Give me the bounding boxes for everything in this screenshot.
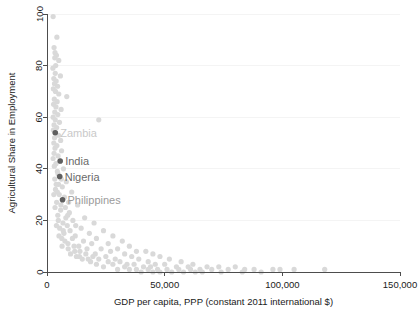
data-point [99, 246, 104, 251]
data-point [101, 228, 106, 233]
data-point [55, 112, 60, 117]
x-tick-label-100000: 100,000 [265, 279, 299, 290]
data-point [79, 226, 84, 231]
data-point [94, 262, 99, 267]
data-point [82, 215, 87, 220]
data-point [52, 164, 57, 169]
data-point [70, 236, 75, 241]
data-point [164, 267, 169, 272]
data-point [106, 241, 111, 246]
data-point [157, 254, 162, 259]
data-point [129, 254, 134, 259]
data-point [57, 120, 62, 125]
data-point [58, 207, 63, 212]
data-point [176, 267, 181, 272]
data-point [52, 135, 57, 140]
data-point [162, 262, 167, 267]
data-point [67, 228, 72, 233]
data-point [53, 71, 58, 76]
data-point [59, 148, 64, 153]
data-point [270, 267, 275, 272]
data-point [51, 45, 56, 50]
data-point [96, 117, 101, 122]
data-point [52, 205, 57, 210]
data-point [153, 262, 158, 267]
data-point [54, 35, 59, 40]
chart-canvas: ZambiaIndiaNigeriaPhilippines02040608010… [0, 0, 420, 316]
data-point [131, 262, 136, 267]
data-point [83, 251, 88, 256]
y-tick-label-60: 60 [34, 112, 45, 123]
data-point [122, 251, 127, 256]
data-point [143, 249, 148, 254]
data-point [64, 94, 69, 99]
data-point [94, 236, 99, 241]
point-label-zambia: Zambia [60, 127, 98, 139]
data-point [51, 192, 56, 197]
y-tick-label-80: 80 [34, 60, 45, 71]
data-point [115, 267, 120, 272]
data-point [56, 218, 61, 223]
data-point [108, 249, 113, 254]
data-point [87, 231, 92, 236]
data-point [52, 146, 57, 151]
data-point [113, 257, 118, 262]
data-point [60, 184, 65, 189]
data-point [117, 259, 122, 264]
data-point [233, 264, 238, 269]
data-point [216, 264, 221, 269]
data-point [167, 257, 172, 262]
data-point [127, 267, 132, 272]
data-point [84, 246, 89, 251]
data-point [146, 267, 151, 272]
y-tick-label-0: 0 [34, 269, 45, 274]
point-label-india: India [65, 155, 90, 167]
data-point [54, 223, 59, 228]
data-point [106, 259, 111, 264]
data-point [77, 254, 82, 259]
highlight-point-nigeria [57, 174, 63, 180]
data-point [61, 228, 66, 233]
highlight-point-zambia [52, 130, 58, 136]
data-point [150, 251, 155, 256]
data-point [134, 249, 139, 254]
data-point [55, 213, 60, 218]
data-point [179, 259, 184, 264]
data-point [115, 246, 120, 251]
data-point [204, 264, 209, 269]
highlight-point-india [57, 158, 63, 164]
data-point [53, 104, 58, 109]
data-point [322, 267, 327, 272]
data-point [55, 153, 60, 158]
data-point [58, 73, 63, 78]
data-point [59, 244, 64, 249]
y-axis-title: Agricultural Share in Employment [6, 72, 17, 213]
data-point [110, 262, 115, 267]
data-point [90, 254, 95, 259]
data-point [134, 267, 139, 272]
x-tick-label-0: 0 [44, 279, 49, 290]
data-point [127, 244, 132, 249]
data-point [52, 177, 57, 182]
data-point [51, 14, 56, 19]
data-point [91, 220, 96, 225]
highlight-point-philippines [60, 197, 66, 203]
data-point [54, 182, 59, 187]
x-axis-title: GDP per capita, PPP (constant 2011 inter… [114, 296, 333, 307]
data-point [146, 259, 151, 264]
x-tick-label-150000: 150,000 [383, 279, 417, 290]
data-point [65, 213, 70, 218]
data-point [188, 267, 193, 272]
data-point [136, 257, 141, 262]
data-point [73, 223, 78, 228]
point-label-nigeria: Nigeria [65, 171, 101, 183]
data-point [292, 267, 297, 272]
data-point [209, 267, 214, 272]
data-point [141, 264, 146, 269]
data-point [103, 254, 108, 259]
y-tick-label-40: 40 [34, 164, 45, 175]
data-point [62, 238, 67, 243]
data-point [59, 107, 64, 112]
data-point [51, 156, 56, 161]
data-point [56, 233, 61, 238]
